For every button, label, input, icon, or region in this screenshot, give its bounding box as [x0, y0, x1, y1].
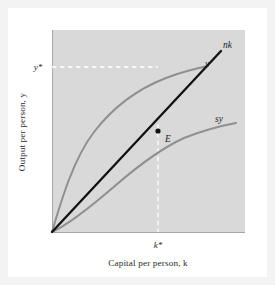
x-axis-tick-label-k-star: k*	[154, 240, 163, 250]
curve-label-y: y	[204, 59, 210, 69]
y-axis-tick-label-y-star: y*	[33, 62, 43, 72]
figure-frame: nk y sy E y* k* Capital per person, k Ou…	[0, 0, 275, 285]
solow-model-chart: nk y sy E y* k* Capital per person, k Ou…	[8, 8, 267, 277]
equilibrium-point-label: E	[164, 134, 171, 144]
curve-label-sy: sy	[215, 114, 224, 124]
figure-canvas: nk y sy E y* k* Capital per person, k Ou…	[8, 8, 267, 277]
equilibrium-point-marker	[155, 128, 160, 133]
y-axis-title: Output per person, y	[17, 92, 27, 171]
curve-label-nk: nk	[223, 40, 233, 50]
x-axis-title: Capital per person, k	[108, 258, 188, 268]
